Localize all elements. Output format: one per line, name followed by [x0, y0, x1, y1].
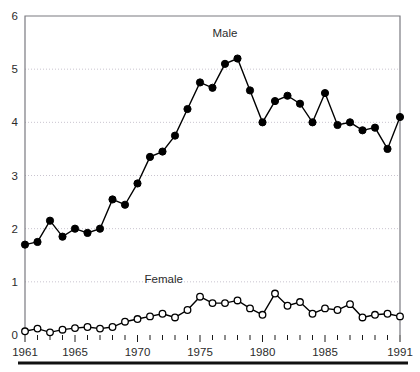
data-point-female — [197, 293, 204, 300]
data-point-female — [384, 310, 391, 317]
data-point-female — [97, 325, 104, 332]
data-point-female — [247, 305, 254, 312]
x-tick-label: 1980 — [250, 346, 276, 358]
x-tick-label: 1991 — [387, 346, 413, 358]
data-point-female — [84, 324, 91, 331]
data-point-male — [234, 55, 241, 62]
data-point-female — [372, 312, 379, 319]
line-chart: 0123456 1961196519701975198019851991 Mal… — [0, 0, 420, 372]
data-point-male — [221, 60, 228, 67]
data-point-female — [359, 314, 366, 321]
data-point-female — [322, 305, 329, 312]
data-point-female — [284, 302, 291, 309]
x-tick-label: 1975 — [187, 346, 213, 358]
data-point-female — [122, 318, 129, 325]
data-point-female — [347, 301, 354, 308]
data-point-male — [146, 153, 153, 160]
data-point-male — [46, 217, 53, 224]
data-point-female — [222, 300, 229, 307]
data-point-male — [21, 241, 28, 248]
y-tick-label: 1 — [12, 276, 18, 288]
x-tick-label: 1970 — [125, 346, 151, 358]
data-point-female — [259, 312, 266, 319]
data-point-female — [34, 325, 41, 332]
data-point-female — [134, 316, 141, 323]
y-tick-label: 6 — [12, 10, 18, 22]
data-point-male — [259, 119, 266, 126]
data-point-male — [71, 225, 78, 232]
x-tick-label: 1965 — [62, 346, 88, 358]
y-tick-label: 3 — [12, 170, 18, 182]
data-point-female — [59, 326, 66, 333]
data-point-male — [284, 92, 291, 99]
x-axis-ticks: 1961196519701975198019851991 — [12, 335, 413, 358]
x-tick-label: 1961 — [12, 346, 38, 358]
data-point-male — [396, 113, 403, 120]
data-point-female — [72, 325, 79, 332]
data-point-male — [246, 87, 253, 94]
gridlines-group — [25, 69, 400, 282]
data-point-male — [34, 238, 41, 245]
series-annotation-male: Male — [213, 27, 238, 39]
y-tick-label: 2 — [12, 223, 18, 235]
data-point-female — [309, 310, 316, 317]
data-point-male — [196, 79, 203, 86]
data-point-female — [297, 299, 304, 306]
y-tick-label: 0 — [12, 329, 18, 341]
data-point-male — [84, 229, 91, 236]
data-point-female — [159, 310, 166, 317]
data-point-female — [397, 313, 404, 320]
data-point-female — [47, 329, 54, 336]
series-female — [22, 290, 404, 335]
data-point-female — [334, 307, 341, 314]
data-point-male — [334, 121, 341, 128]
y-tick-label: 4 — [12, 116, 19, 128]
x-tick-label: 1985 — [312, 346, 338, 358]
series-annotation-female: Female — [145, 273, 183, 285]
data-point-male — [184, 105, 191, 112]
data-point-male — [371, 124, 378, 131]
data-point-male — [134, 180, 141, 187]
data-point-male — [384, 145, 391, 152]
data-point-male — [121, 201, 128, 208]
data-point-female — [172, 314, 179, 321]
data-point-female — [109, 324, 116, 331]
data-point-male — [159, 148, 166, 155]
data-point-male — [171, 132, 178, 139]
data-point-male — [271, 97, 278, 104]
data-point-male — [109, 196, 116, 203]
data-point-male — [96, 225, 103, 232]
chart-container: 0123456 1961196519701975198019851991 Mal… — [0, 0, 420, 372]
y-axis-ticks: 0123456 — [12, 10, 19, 341]
data-point-female — [184, 307, 191, 314]
data-point-male — [296, 100, 303, 107]
y-tick-label: 5 — [12, 63, 18, 75]
data-point-male — [59, 233, 66, 240]
data-point-male — [346, 119, 353, 126]
data-point-female — [234, 297, 241, 304]
data-point-female — [272, 290, 279, 297]
data-point-male — [209, 84, 216, 91]
data-point-female — [209, 300, 216, 307]
data-point-male — [309, 119, 316, 126]
data-point-male — [321, 89, 328, 96]
data-point-male — [359, 127, 366, 134]
data-point-female — [22, 328, 29, 335]
series-male — [21, 55, 403, 248]
data-point-female — [147, 313, 154, 320]
